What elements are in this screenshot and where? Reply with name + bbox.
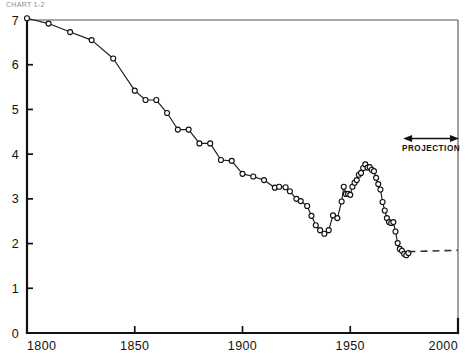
data-point-marker [309,213,314,218]
y-tick-label: 0 [12,327,19,341]
data-point-marker [262,178,267,183]
data-point-marker [46,21,51,26]
x-tick-label: 1900 [228,339,257,353]
data-point-marker [326,228,331,233]
y-tick-label: 6 [12,58,19,72]
data-point-marker [380,199,385,204]
data-point-marker [132,88,137,93]
chart-caption-text: CHART 1-2 [6,1,45,8]
data-point-marker [376,182,381,187]
data-point-marker [175,127,180,132]
data-point-marker [68,30,73,35]
fertility-rate-line-chart: PROJECTION 1800185019001950200001234567 … [0,0,476,362]
data-point-marker [111,56,116,61]
x-tick-label: 1950 [336,339,365,353]
data-point-marker [25,16,30,21]
data-series-line [27,18,408,255]
data-point-markers [25,16,411,258]
data-point-marker [154,98,159,103]
data-point-marker [218,157,223,162]
series-polyline [27,18,408,255]
axis-tick-labels: 1800185019001950200001234567 [12,14,458,354]
data-point-marker [143,98,148,103]
data-point-marker [208,141,213,146]
data-point-marker [359,170,364,175]
chart-caption: CHART 1-2 [6,1,45,8]
data-point-marker [298,199,303,204]
data-point-marker [277,184,282,189]
data-point-marker [287,189,292,194]
y-tick-label: 5 [12,103,19,117]
data-point-marker [318,228,323,233]
y-tick-label: 3 [12,192,19,206]
y-tick-label: 7 [12,14,19,28]
data-point-marker [240,171,245,176]
y-tick-label: 2 [12,237,19,251]
projection-annotation: PROJECTION [402,135,460,153]
data-point-marker [339,199,344,204]
data-point-marker [382,208,387,213]
data-point-marker [197,141,202,146]
y-tick-label: 1 [12,282,19,296]
data-point-marker [251,174,256,179]
x-tick-label: 2000 [429,339,458,353]
data-point-marker [322,231,327,236]
chart-figure: PROJECTION 1800185019001950200001234567 … [0,0,476,362]
data-point-marker [283,185,288,190]
data-point-marker [305,204,310,209]
data-point-marker [374,175,379,180]
x-tick-label: 1800 [27,339,56,353]
data-point-marker [229,158,234,163]
projection-arrowhead-left [403,135,412,142]
projection-line [408,250,458,251]
data-point-marker [378,187,383,192]
projection-dashed-line [408,250,458,251]
data-point-marker [354,178,359,183]
projection-label: PROJECTION [402,144,460,153]
x-tick-label: 1850 [120,339,149,353]
data-point-marker [341,184,346,189]
data-point-marker [348,192,353,197]
data-point-marker [89,38,94,43]
data-point-marker [393,229,398,234]
data-point-marker [335,216,340,221]
data-point-marker [313,223,318,228]
data-point-marker [165,111,170,116]
data-point-marker [186,127,191,132]
data-point-marker [395,241,400,246]
data-point-marker [371,169,376,174]
data-point-marker [391,220,396,225]
y-tick-label: 4 [12,148,19,162]
